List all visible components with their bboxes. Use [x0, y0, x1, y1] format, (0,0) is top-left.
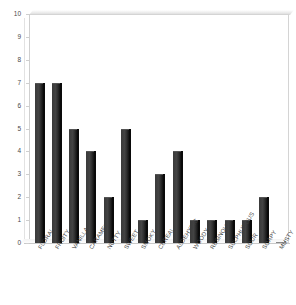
y-axis-tick-label: 2: [17, 194, 21, 201]
bar: [259, 197, 267, 243]
y-axis-tick-label: 5: [17, 125, 21, 132]
bar-slot: [272, 14, 289, 243]
bar: [155, 174, 163, 243]
y-axis-tick-label: 7: [17, 79, 21, 86]
bar-slot: [30, 14, 47, 243]
bar-slot: [254, 14, 271, 243]
bar-slot: [203, 14, 220, 243]
bar: [35, 83, 43, 243]
y-axis-tick-mark: [26, 174, 29, 175]
bar: [121, 129, 129, 244]
x-label-slot: SOAPY: [254, 244, 271, 305]
y-axis-tick-label: 10: [14, 11, 21, 18]
bar-slot: [168, 14, 185, 243]
y-axis-tick-label: 8: [17, 57, 21, 64]
x-label-slot: SULPHUROUS: [220, 244, 237, 305]
bar: [52, 83, 60, 243]
bar: [104, 197, 112, 243]
y-axis-tick-label: 9: [17, 34, 21, 41]
y-axis-tick-mark: [26, 14, 29, 15]
bar-slot: [99, 14, 116, 243]
bar-slot: [65, 14, 82, 243]
y-axis-ticks: 012345678910: [0, 0, 29, 305]
x-label-slot: FLORAL: [30, 244, 47, 305]
x-label-slot: SOUR: [237, 244, 254, 305]
x-label-slot: VANILLA: [65, 244, 82, 305]
y-axis-tick-label: 1: [17, 217, 21, 224]
x-label-slot: SWEET: [116, 244, 133, 305]
bar-slot: [47, 14, 64, 243]
y-axis-tick-label: 4: [17, 148, 21, 155]
y-axis-tick-mark: [26, 220, 29, 221]
x-label-slot: SMOKY: [134, 244, 151, 305]
y-axis-tick-mark: [26, 37, 29, 38]
x-label-slot: NUTTY: [99, 244, 116, 305]
y-axis-tick-label: 6: [17, 102, 21, 109]
y-axis-tick-mark: [26, 197, 29, 198]
x-label-slot: MUSTY: [272, 244, 289, 305]
bar-slot: [151, 14, 168, 243]
x-label-slot: CARAMEL: [82, 244, 99, 305]
x-label-slot: FRUITY: [47, 244, 64, 305]
x-label-slot: WOODY: [185, 244, 202, 305]
bar-series: [30, 14, 289, 243]
bar-slot: [134, 14, 151, 243]
bar-slot: [220, 14, 237, 243]
bar-slot: [237, 14, 254, 243]
y-axis-tick-mark: [26, 83, 29, 84]
plot-area: [30, 14, 289, 243]
y-axis-tick-label: 0: [17, 240, 21, 247]
x-axis-labels: FLORALFRUITYVANILLACARAMELNUTTYSWEETSMOK…: [30, 244, 289, 305]
bar-slot: [185, 14, 202, 243]
y-axis-tick-mark: [26, 129, 29, 130]
y-axis-tick-mark: [26, 151, 29, 152]
bar-slot: [82, 14, 99, 243]
y-axis-tick-mark: [26, 243, 29, 244]
x-label-slot: CEREAL: [151, 244, 168, 305]
bar-chart: 012345678910 FLORALFRUITYVANILLACARAMELN…: [0, 0, 296, 305]
y-axis-tick-mark: [26, 106, 29, 107]
x-label-slot: ALDEHYDIC: [168, 244, 185, 305]
bar-slot: [116, 14, 133, 243]
y-axis-tick-mark: [26, 60, 29, 61]
x-label-slot: RESINOUS: [203, 244, 220, 305]
bar: [69, 129, 77, 244]
y-axis-tick-label: 3: [17, 171, 21, 178]
